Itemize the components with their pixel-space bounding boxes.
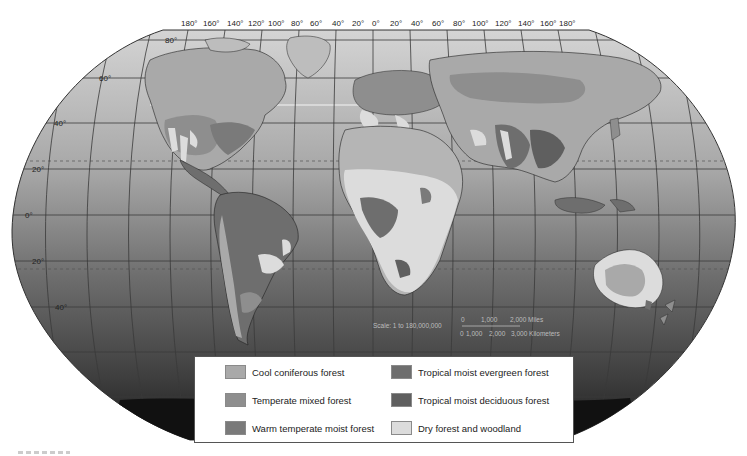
legend-item-temperate-mixed: Temperate mixed forest [225, 391, 351, 409]
svg-text:60°: 60° [310, 19, 322, 28]
svg-text:20°: 20° [32, 165, 44, 174]
svg-text:160°: 160° [540, 19, 557, 28]
swatch-cool-coniferous [225, 365, 246, 379]
legend-label: Warm temperate moist forest [252, 423, 374, 434]
legend-label: Dry forest and woodland [418, 423, 521, 434]
svg-text:Scale: 1 to 180,000,000: Scale: 1 to 180,000,000 [373, 322, 442, 329]
svg-text:0°: 0° [25, 211, 33, 220]
swatch-warm-temperate [225, 421, 246, 435]
svg-text:60°: 60° [99, 74, 111, 83]
svg-text:180°: 180° [559, 19, 576, 28]
svg-text:0: 0 [460, 330, 464, 337]
swatch-dry-forest [391, 421, 412, 435]
svg-text:40°: 40° [55, 303, 67, 312]
svg-text:20°: 20° [32, 257, 44, 266]
svg-text:3,000 Kilometers: 3,000 Kilometers [511, 330, 561, 337]
svg-text:40°: 40° [332, 19, 344, 28]
svg-text:20°: 20° [390, 19, 402, 28]
svg-text:80°: 80° [165, 36, 177, 45]
svg-text:100°: 100° [268, 19, 285, 28]
svg-text:160°: 160° [203, 19, 220, 28]
legend-item-tropical-evergreen: Tropical moist evergreen forest [391, 363, 549, 381]
legend-label: Cool coniferous forest [252, 367, 344, 378]
legend-label: Tropical moist evergreen forest [418, 367, 549, 378]
legend-label: Tropical moist deciduous forest [418, 395, 549, 406]
svg-text:20°: 20° [352, 19, 364, 28]
svg-text:120°: 120° [248, 19, 265, 28]
svg-text:140°: 140° [227, 19, 244, 28]
svg-text:80°: 80° [453, 19, 465, 28]
legend-label: Temperate mixed forest [252, 395, 351, 406]
svg-text:180°: 180° [181, 19, 198, 28]
swatch-temperate-mixed [225, 393, 246, 407]
swatch-tropical-deciduous [391, 393, 412, 407]
svg-text:1,000: 1,000 [481, 316, 498, 323]
svg-text:140°: 140° [518, 19, 535, 28]
legend-item-cool-coniferous: Cool coniferous forest [225, 363, 344, 381]
svg-text:120°: 120° [495, 19, 512, 28]
page-edge-mark [18, 451, 70, 454]
svg-text:40°: 40° [54, 119, 66, 128]
legend: Cool coniferous forest Temperate mixed f… [194, 356, 574, 443]
svg-text:0°: 0° [372, 19, 380, 28]
legend-item-dry-forest: Dry forest and woodland [391, 419, 521, 437]
svg-text:2,000: 2,000 [489, 330, 506, 337]
svg-text:100°: 100° [472, 19, 489, 28]
svg-text:2,000 Miles: 2,000 Miles [510, 316, 544, 323]
longitude-labels: 180° 160° 140° 120° 100° 80° 60° 40° 20°… [181, 19, 576, 28]
svg-text:1,000: 1,000 [466, 330, 483, 337]
svg-text:0: 0 [461, 316, 465, 323]
svg-text:60°: 60° [432, 19, 444, 28]
legend-item-warm-temperate: Warm temperate moist forest [225, 419, 374, 437]
legend-item-tropical-deciduous: Tropical moist deciduous forest [391, 391, 549, 409]
svg-text:40°: 40° [411, 19, 423, 28]
swatch-tropical-evergreen [391, 365, 412, 379]
svg-text:80°: 80° [291, 19, 303, 28]
